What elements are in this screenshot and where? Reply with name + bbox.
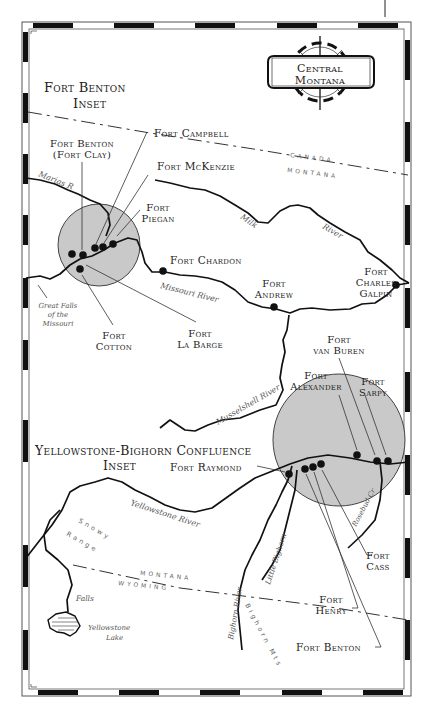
fort-charles-galpin-label-2: Charles bbox=[356, 277, 397, 288]
falls-label: Falls bbox=[75, 594, 94, 603]
fort-cotton-label-2: Cotton bbox=[96, 341, 133, 352]
fort-cotton-label-1: Fort bbox=[102, 330, 126, 341]
fort-marker-raymond bbox=[285, 470, 293, 478]
fort-benton-clay-label-2: (Fort Clay) bbox=[53, 149, 111, 160]
great-falls-label-3: Missouri bbox=[42, 320, 74, 328]
fort-marker-mckenzie bbox=[99, 243, 107, 251]
fort-raymond-label: Fort Raymond bbox=[170, 461, 242, 473]
fort-marker-la-barge bbox=[76, 265, 84, 273]
fort-campbell-label: Fort Campbell bbox=[154, 127, 229, 139]
fort-marker-cotton-a bbox=[79, 251, 87, 259]
fort-charles-galpin-label-1: Fort bbox=[364, 266, 388, 277]
great-falls-label-2: of the bbox=[48, 311, 69, 319]
yellowstone-lake-label-2: Lake bbox=[105, 634, 123, 642]
central-montana-map: Central Montana CANADA MONTANA MONTANA W… bbox=[0, 0, 433, 715]
fort-cass-label-1: Fort bbox=[366, 550, 390, 561]
fort-benton-inset-circle bbox=[58, 204, 140, 286]
fort-benton-label: Fort Benton bbox=[296, 641, 361, 653]
fort-alexander-label-2: Alexander bbox=[289, 381, 342, 392]
yellowstone-lake-label-1: Yellowstone bbox=[88, 624, 130, 632]
fort-andrew-label-2: Andrew bbox=[254, 289, 294, 300]
fort-la-barge-label-2: La Barge bbox=[177, 339, 223, 350]
fort-mckenzie-label: Fort McKenzie bbox=[157, 160, 235, 172]
fort-marker-alexander bbox=[353, 451, 361, 459]
great-falls-label-1: Great Falls bbox=[39, 302, 78, 310]
fort-marker-piegan bbox=[109, 240, 117, 248]
fort-marker-benton-y bbox=[301, 465, 309, 473]
fort-henry-label-1: Fort bbox=[319, 594, 343, 605]
fort-marker-andrew bbox=[270, 303, 278, 311]
yellowstone-inset-subtitle: Inset bbox=[103, 458, 136, 473]
fort-marker-benton-clay bbox=[68, 250, 76, 258]
fort-charles-galpin-label-3: Galpin bbox=[359, 288, 392, 299]
fort-marker-cass bbox=[317, 460, 325, 468]
fort-sarpy-label-1: Fort bbox=[361, 376, 385, 387]
fort-van-buren-label-1: Fort bbox=[327, 334, 351, 345]
yellowstone-inset-title: Yellowstone-Bighorn Confluence bbox=[34, 443, 251, 458]
fort-andrew-label-1: Fort bbox=[262, 278, 286, 289]
fort-henry-label-2: Henry bbox=[315, 605, 346, 616]
fort-marker-chardon bbox=[159, 267, 167, 275]
fort-piegan-label-1: Fort bbox=[146, 202, 170, 213]
fort-la-barge-label-1: Fort bbox=[188, 328, 212, 339]
fort-sarpy-label-2: Sarpy bbox=[359, 387, 387, 398]
fort-cass-label-2: Cass bbox=[366, 561, 389, 572]
map-title-line2: Montana bbox=[295, 74, 345, 87]
fort-chardon-label: Fort Chardon bbox=[170, 254, 242, 266]
fort-benton-inset-subtitle: Inset bbox=[73, 96, 106, 111]
fort-benton-inset-title: Fort Benton bbox=[44, 80, 126, 95]
fort-marker-sarpy bbox=[384, 457, 392, 465]
fort-alexander-label-1: Fort bbox=[304, 370, 328, 381]
fort-van-buren-label-2: van Buren bbox=[312, 345, 364, 356]
fort-marker-campbell bbox=[91, 244, 99, 252]
fort-marker-henry bbox=[309, 463, 317, 471]
fort-benton-clay-label-1: Fort Benton bbox=[50, 138, 114, 149]
fort-piegan-label-2: Piegan bbox=[141, 213, 174, 224]
fort-marker-van-buren bbox=[373, 457, 381, 465]
